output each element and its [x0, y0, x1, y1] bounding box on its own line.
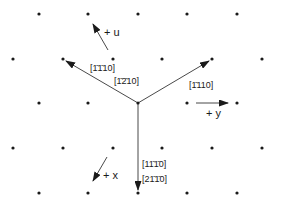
lattice-point — [37, 101, 40, 104]
label-upper-left-1: [1̄1̄10] — [90, 63, 115, 73]
lattice-point — [111, 57, 114, 60]
lattice-point — [136, 191, 139, 194]
label-down-1: [11̄1̄0] — [142, 159, 166, 169]
lattice-point — [37, 191, 40, 194]
lattice-point — [210, 57, 213, 60]
label-upper-right: [1̄110] — [189, 80, 213, 90]
lattice-point — [185, 191, 188, 194]
lattice-point — [185, 101, 188, 104]
lattice-point — [11, 57, 14, 60]
lattice-point — [160, 146, 163, 149]
label-upper-left-2: [1̄2̄10] — [114, 76, 139, 86]
lattice-point — [37, 12, 40, 15]
lattice-point — [11, 146, 14, 149]
axis-x-label: + x — [103, 169, 118, 181]
lattice-point — [136, 12, 139, 15]
lattice-point — [210, 146, 213, 149]
lattice-point — [235, 191, 238, 194]
lattice-point — [260, 57, 263, 60]
lattice-point — [160, 57, 163, 60]
lattice-point — [61, 146, 64, 149]
axis-u-label: + u — [104, 26, 120, 38]
lattice-point — [111, 146, 114, 149]
lattice-point — [86, 191, 89, 194]
hexagonal-lattice-diagram: + u + y + x [1̄1̄10] [1̄2̄10] [1̄110] [1… — [0, 0, 286, 212]
lattice-point — [185, 12, 188, 15]
lattice-point — [86, 101, 89, 104]
lattice-point — [260, 146, 263, 149]
lattice-point — [86, 12, 89, 15]
axis-y-label: + y — [206, 107, 221, 119]
label-down-2: [21̄1̄0] — [142, 174, 167, 184]
lattice-points — [11, 12, 263, 194]
lattice-point — [235, 12, 238, 15]
lattice-point — [235, 101, 238, 104]
lattice-point — [61, 57, 64, 60]
